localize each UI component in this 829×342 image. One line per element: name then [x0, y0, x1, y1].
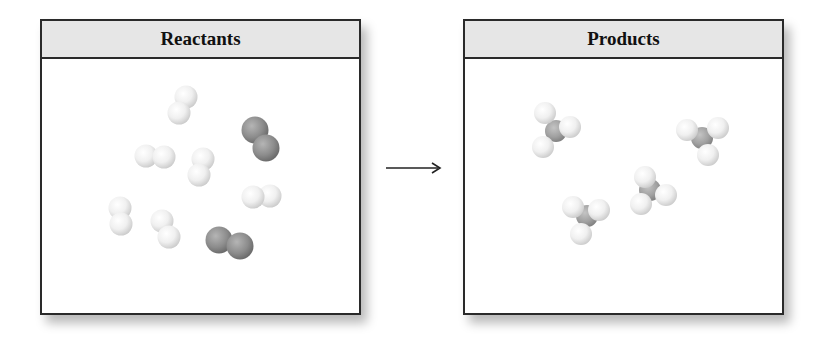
reactants-panel: Reactants [40, 19, 361, 315]
products-panel: Products [463, 19, 784, 315]
reaction-arrow-icon [384, 158, 444, 178]
products-title: Products [587, 28, 659, 50]
products-header: Products [465, 21, 782, 59]
reactants-header: Reactants [42, 21, 359, 59]
reactants-title: Reactants [160, 28, 240, 50]
